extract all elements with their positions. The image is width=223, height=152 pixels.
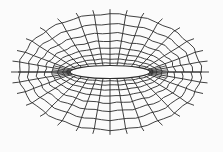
mesh-diagram [0, 0, 223, 152]
mesh-spoke [148, 51, 203, 70]
mesh-spoke [93, 78, 103, 133]
mesh-spoke [117, 10, 127, 65]
mesh-spoke [138, 28, 180, 68]
mesh-canvas [0, 0, 223, 152]
elliptical-hole [70, 66, 150, 79]
hole-boundary [70, 66, 150, 79]
mesh-spoke [117, 78, 127, 133]
mesh-spoke [17, 51, 72, 70]
mesh-spoke [93, 10, 103, 65]
mesh-spoke [40, 28, 82, 68]
mesh-spoke [124, 78, 144, 131]
